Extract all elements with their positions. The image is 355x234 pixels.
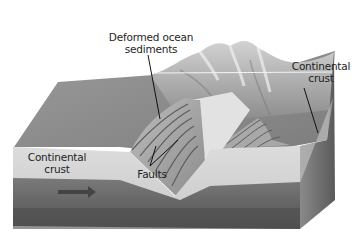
label-line: crust bbox=[22, 163, 92, 175]
label-line: sediments bbox=[96, 43, 206, 55]
label-deformed-ocean-sediments: Deformed ocean sediments bbox=[96, 31, 206, 55]
label-line: Faults bbox=[132, 168, 172, 180]
label-line: Continental bbox=[22, 151, 92, 163]
label-line: Continental bbox=[286, 60, 355, 72]
label-continental-crust-left: Continental crust bbox=[22, 151, 92, 175]
label-continental-crust-right: Continental crust bbox=[286, 60, 355, 84]
label-line: Deformed ocean bbox=[96, 31, 206, 43]
label-faults: Faults bbox=[132, 168, 172, 180]
label-line: crust bbox=[286, 72, 355, 84]
